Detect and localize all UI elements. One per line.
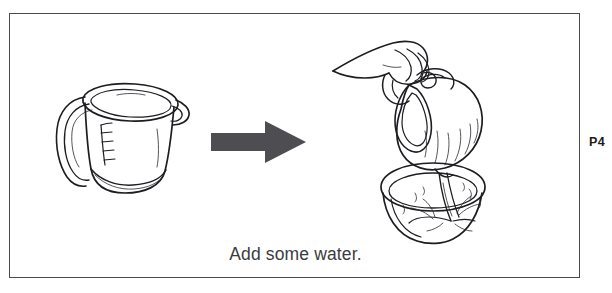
caption-text: Add some water. xyxy=(10,244,581,265)
pouring-scene-illustration xyxy=(323,23,513,251)
process-arrow xyxy=(207,117,311,167)
measuring-cup-illustration xyxy=(45,73,193,203)
arrow-icon xyxy=(207,117,311,167)
page-marker-label: P4 xyxy=(589,135,605,149)
page-root: Add some water. P4 xyxy=(0,0,612,293)
pouring-scene-svg xyxy=(323,23,513,251)
illustration-frame: Add some water. xyxy=(9,13,580,278)
measuring-cup-svg xyxy=(45,73,193,203)
